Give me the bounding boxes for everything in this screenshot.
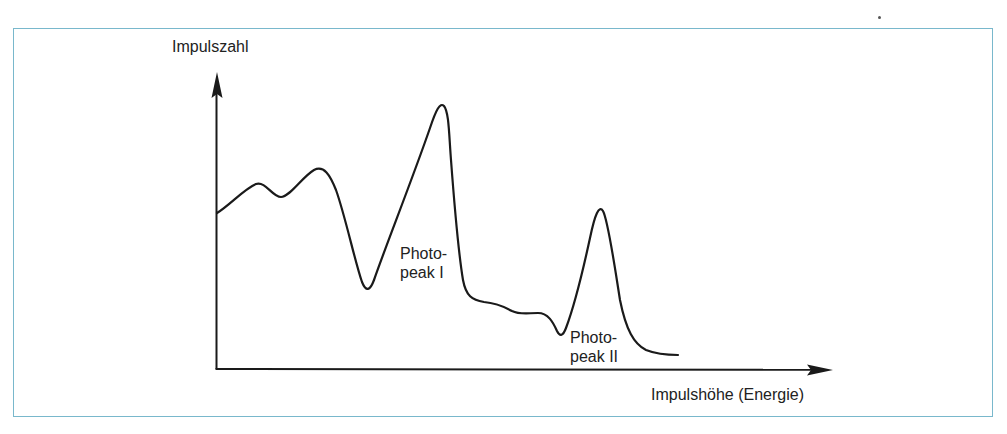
photopeak-1-annotation: Photo- peak I bbox=[400, 244, 447, 282]
photopeak-2-annotation: Photo- peak II bbox=[570, 328, 618, 366]
spectrum-plot bbox=[0, 0, 1007, 434]
photopeak-1-line2: peak I bbox=[400, 263, 447, 282]
y-axis-label: Impulszahl bbox=[172, 38, 248, 56]
x-axis-label: Impulshöhe (Energie) bbox=[651, 386, 804, 404]
photopeak-2-line1: Photo- bbox=[570, 328, 618, 347]
x-axis bbox=[216, 369, 813, 370]
photopeak-1-line1: Photo- bbox=[400, 244, 447, 263]
photopeak-2-line2: peak II bbox=[570, 347, 618, 366]
spectrum-curve bbox=[217, 105, 678, 355]
